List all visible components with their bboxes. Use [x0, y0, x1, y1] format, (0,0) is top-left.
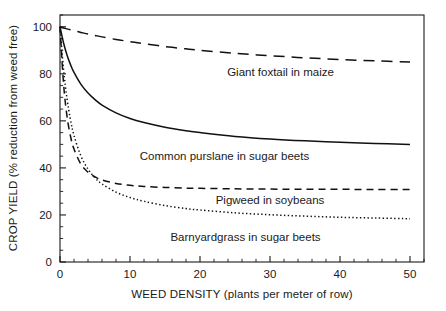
series-inline-labels: Giant foxtail in maizeCommon purslane in… — [140, 66, 334, 243]
y-tick-label: 40 — [39, 162, 52, 174]
x-tick-label: 30 — [264, 268, 277, 280]
x-tick-label: 10 — [124, 268, 137, 280]
series-label-common-purslane-in-sugar-beets: Common purslane in sugar beets — [140, 150, 310, 162]
y-tick-label: 80 — [39, 68, 52, 80]
weed-density-crop-yield-chart: 01020304050 020406080100 Giant foxtail i… — [0, 0, 446, 311]
x-axis-tick-labels: 01020304050 — [57, 268, 417, 280]
series-label-barnyardgrass-in-sugar-beets: Barnyardgrass in sugar beets — [170, 231, 320, 243]
curve-common-purslane-in-sugar-beets — [60, 27, 410, 145]
x-tick-label: 20 — [194, 268, 207, 280]
x-tick-label: 40 — [334, 268, 347, 280]
y-tick-label: 100 — [33, 21, 52, 33]
curve-pigweed-in-soybeans — [60, 27, 410, 190]
y-tick-label: 0 — [46, 256, 52, 268]
y-axis-tick-labels: 020406080100 — [33, 21, 52, 268]
y-tick-label: 60 — [39, 115, 52, 127]
data-curves — [60, 27, 410, 219]
y-tick-label: 20 — [39, 209, 52, 221]
y-axis-title: CROP YIELD (% reduction from weed free) — [7, 25, 19, 252]
plot-frame — [60, 15, 424, 262]
x-axis-title: WEED DENSITY (plants per meter of row) — [131, 288, 353, 300]
chart-figure: 01020304050 020406080100 Giant foxtail i… — [0, 0, 446, 311]
x-tick-label: 0 — [57, 268, 63, 280]
series-label-pigweed-in-soybeans: Pigweed in soybeans — [216, 194, 325, 206]
series-label-giant-foxtail-in-maize: Giant foxtail in maize — [227, 66, 334, 78]
curve-giant-foxtail-in-maize — [60, 27, 410, 62]
x-axis-major-ticks — [60, 256, 410, 262]
x-tick-label: 50 — [404, 268, 417, 280]
